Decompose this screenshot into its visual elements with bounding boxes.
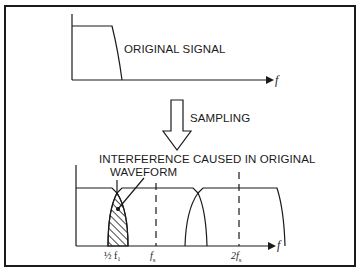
original-spectrum-curve xyxy=(72,26,122,80)
top-axis-label: f xyxy=(275,73,278,88)
sampling-arrow-icon xyxy=(163,100,191,150)
tick-2fs: 2fs xyxy=(231,250,242,264)
sampled-spectrum-plot xyxy=(76,165,285,250)
image1-top xyxy=(117,188,198,193)
original-signal-label: ORIGINAL SIGNAL xyxy=(124,43,225,55)
image2-lower-edge xyxy=(198,193,207,246)
interference-annotation-line1: INTERFERENCE CAUSED IN ORIGINAL xyxy=(99,153,316,165)
bottom-axis-label: f xyxy=(277,238,280,253)
image1-upper-edge xyxy=(185,193,198,246)
interference-annotation-line2: WAVEFORM xyxy=(110,166,177,178)
annotation-leader-diagonal xyxy=(118,178,144,209)
bottom-axis-arrow-icon xyxy=(268,242,276,250)
annotation-dot xyxy=(117,208,120,211)
sampling-label: SAMPLING xyxy=(190,112,250,124)
baseband-top xyxy=(76,188,117,193)
diagram-canvas xyxy=(0,0,361,277)
tick-half-f1: ½ f₁ xyxy=(104,250,121,261)
image2-spectrum xyxy=(198,188,285,246)
tick-fs: fs xyxy=(150,250,156,264)
top-axis-arrow-icon xyxy=(266,76,274,84)
